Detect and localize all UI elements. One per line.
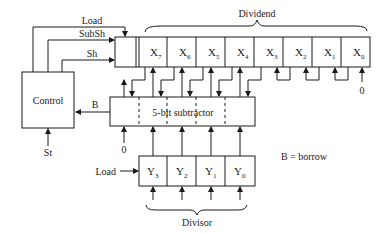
cell-x4: X4 bbox=[237, 46, 249, 61]
legend-borrow: B = borrow bbox=[281, 151, 328, 162]
subtractor-zero-input: 0 bbox=[122, 144, 127, 155]
subsh-label: SubSh bbox=[79, 28, 105, 39]
dividend-brace bbox=[145, 20, 367, 32]
borrow-label: B bbox=[92, 99, 99, 110]
cell-y2: Y2 bbox=[176, 165, 188, 180]
divider-diagram: Control St B Load SubSh Sh Dividend X7 X… bbox=[0, 0, 387, 233]
divisor-label: Divisor bbox=[182, 217, 213, 228]
subtractor-label: 5-bit subtractor bbox=[152, 107, 214, 118]
sh-line bbox=[62, 60, 114, 72]
st-label: St bbox=[44, 147, 53, 158]
divisor-load-label: Load bbox=[95, 166, 116, 177]
cell-x2: X2 bbox=[295, 46, 307, 61]
divisor-brace bbox=[146, 205, 247, 215]
cell-y1: Y1 bbox=[205, 165, 217, 180]
control-label: Control bbox=[33, 95, 64, 106]
load-label: Load bbox=[82, 15, 103, 26]
cell-x1: X1 bbox=[324, 46, 336, 61]
cell-x5: X5 bbox=[208, 46, 220, 61]
cell-x3: X3 bbox=[266, 46, 278, 61]
cell-y0: Y0 bbox=[234, 165, 246, 180]
x0-zero-input: 0 bbox=[360, 85, 365, 96]
sh-label: Sh bbox=[87, 48, 98, 59]
dividend-label: Dividend bbox=[238, 8, 275, 19]
subsh-line bbox=[48, 40, 114, 72]
cell-x6: X6 bbox=[179, 46, 191, 61]
cell-y3: Y3 bbox=[147, 165, 159, 180]
cell-x0: X0 bbox=[353, 46, 365, 61]
cell-x7: X7 bbox=[150, 46, 162, 61]
